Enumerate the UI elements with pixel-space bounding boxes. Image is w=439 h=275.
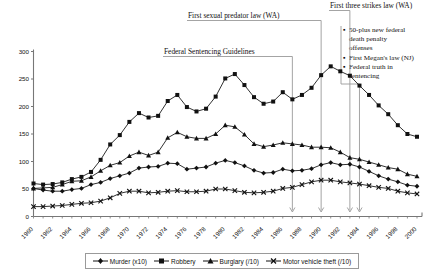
legend-item-motor-vehicle-theft: Motor vehicle theft (/10)	[266, 257, 351, 265]
svg-text:50: 50	[22, 185, 29, 192]
svg-text:100: 100	[19, 158, 30, 165]
svg-text:1990: 1990	[307, 225, 322, 240]
svg-text:1976: 1976	[173, 225, 188, 240]
svg-text:300: 300	[19, 48, 30, 55]
legend-marker-square-icon	[154, 257, 169, 265]
svg-text:1970: 1970	[115, 225, 130, 240]
x-axis-ticks: 1960196219641966196819701972197419761978…	[20, 217, 419, 240]
svg-text:250: 250	[19, 75, 30, 82]
svg-text:1966: 1966	[77, 225, 92, 240]
legend-label-murder: Murder (x10)	[110, 258, 147, 265]
legend-item-burglary: Burglary (/10)	[203, 257, 259, 265]
svg-text:1960: 1960	[20, 225, 35, 240]
svg-text:1968: 1968	[96, 225, 111, 240]
svg-text:1996: 1996	[365, 225, 380, 240]
svg-text:1998: 1998	[384, 225, 399, 240]
svg-text:1994: 1994	[345, 225, 360, 240]
chart-screenshot: Federal Sentencing Guidelines First sexu…	[0, 0, 439, 275]
svg-text:1980: 1980	[211, 225, 226, 240]
svg-text:2000: 2000	[403, 225, 418, 240]
chart-axes	[34, 50, 423, 217]
svg-text:150: 150	[19, 130, 30, 137]
line-chart-plot: 050100150200250300 196019621964196619681…	[0, 0, 439, 275]
svg-text:1992: 1992	[326, 225, 341, 240]
legend-marker-triangle-icon	[203, 257, 218, 265]
legend-item-murder: Murder (x10)	[93, 257, 147, 265]
svg-text:1964: 1964	[58, 225, 73, 240]
svg-text:1962: 1962	[39, 225, 54, 240]
legend-label-robbery: Robbery	[171, 258, 196, 265]
svg-text:0: 0	[26, 213, 30, 220]
svg-text:1986: 1986	[269, 225, 284, 240]
svg-text:200: 200	[19, 103, 30, 110]
legend-label-motor-vehicle-theft: Motor vehicle theft (/10)	[283, 258, 351, 265]
svg-text:1984: 1984	[250, 225, 265, 240]
legend-marker-diamond-icon	[93, 257, 108, 265]
svg-text:1982: 1982	[230, 225, 245, 240]
y-axis-ticks: 050100150200250300	[19, 48, 34, 220]
legend-label-burglary: Burglary (/10)	[220, 258, 259, 265]
chart-legend: Murder (x10) Robbery Burglary (/10) Moto…	[85, 253, 359, 269]
data-series-group	[31, 64, 420, 208]
svg-text:1972: 1972	[135, 225, 150, 240]
svg-text:1988: 1988	[288, 225, 303, 240]
legend-item-robbery: Robbery	[154, 257, 196, 265]
svg-text:1978: 1978	[192, 225, 207, 240]
svg-text:1974: 1974	[154, 225, 169, 240]
legend-marker-x-icon	[266, 257, 281, 265]
